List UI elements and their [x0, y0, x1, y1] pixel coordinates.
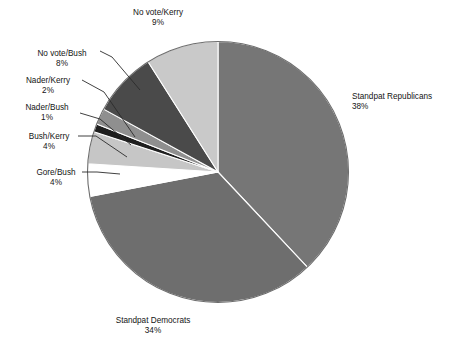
- slice-label-name: No vote/Bush: [37, 49, 87, 58]
- slice-label: Standpat Republicans38%: [352, 92, 432, 111]
- slice-label: Nader/Bush1%: [25, 103, 69, 122]
- pie-slices: [88, 42, 349, 303]
- slice-label-percent: 2%: [42, 86, 54, 95]
- slice-label-percent: 4%: [43, 142, 55, 151]
- slice-label-name: Nader/Bush: [25, 103, 69, 112]
- pie-chart-svg: Standpat Republicans38%Standpat Democrat…: [0, 0, 451, 348]
- slice-label: Bush/Kerry4%: [29, 132, 70, 151]
- slice-label: Gore/Bush4%: [36, 168, 76, 187]
- slice-label-percent: 34%: [145, 326, 161, 335]
- slice-label-name: Bush/Kerry: [29, 132, 70, 141]
- slice-label-name: No vote/Kerry: [133, 8, 184, 17]
- slice-label-name: Gore/Bush: [36, 168, 76, 177]
- slice-label-percent: 8%: [56, 59, 68, 68]
- slice-label-percent: 4%: [50, 178, 62, 187]
- slice-label-percent: 9%: [152, 18, 164, 27]
- slice-label: Nader/Kerry2%: [26, 76, 71, 95]
- slice-label-name: Standpat Republicans: [352, 92, 432, 101]
- pie-chart-figure: Standpat Republicans38%Standpat Democrat…: [0, 0, 451, 348]
- slice-label-percent: 38%: [352, 102, 368, 111]
- slice-label: No vote/Bush8%: [37, 49, 87, 68]
- slice-label: Standpat Democrats34%: [116, 316, 191, 335]
- slice-label-percent: 1%: [41, 113, 53, 122]
- slice-label: No vote/Kerry9%: [133, 8, 184, 27]
- slice-label-name: Standpat Democrats: [116, 316, 191, 325]
- slice-label-name: Nader/Kerry: [26, 76, 71, 85]
